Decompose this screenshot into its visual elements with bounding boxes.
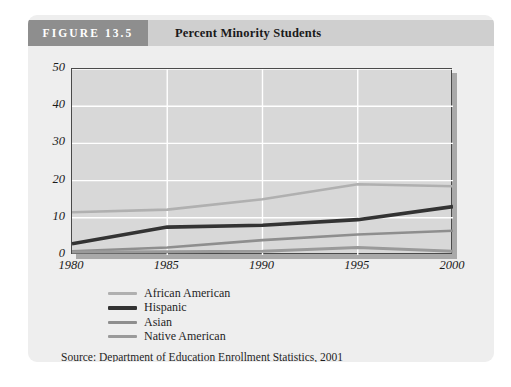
plot-shell [71, 68, 452, 254]
figure-card: FIGURE 13.5 Percent Minority Students 01… [28, 15, 494, 362]
x-tick-label: 1985 [136, 258, 196, 273]
source-note: Source: Department of Education Enrollme… [61, 351, 343, 362]
legend-label: African American [144, 286, 230, 301]
figure-title: Percent Minority Students [175, 26, 321, 41]
y-tick-label: 40 [31, 97, 65, 112]
legend-item: Native American [108, 330, 368, 345]
legend-item: Asian [108, 315, 368, 330]
figure-number-band: FIGURE 13.5 [28, 20, 148, 46]
figure-number-label: FIGURE 13.5 [43, 27, 134, 39]
figure-header: FIGURE 13.5 Percent Minority Students [28, 20, 494, 46]
plot-area [71, 68, 452, 254]
x-tick-label: 1980 [41, 258, 101, 273]
chart-legend: African AmericanHispanicAsianNative Amer… [108, 286, 368, 344]
x-tick-label: 1995 [327, 258, 387, 273]
legend-line-icon [108, 321, 137, 324]
y-tick-label: 30 [31, 134, 65, 149]
figure-title-band: Percent Minority Students [148, 20, 494, 46]
legend-line-icon [108, 335, 137, 338]
series-lines [72, 69, 453, 255]
y-tick-label: 50 [31, 60, 65, 75]
y-tick-label: 20 [31, 172, 65, 187]
legend-item: Hispanic [108, 301, 368, 316]
legend-line-icon [108, 306, 137, 310]
series-line [72, 207, 453, 244]
y-tick-label: 10 [31, 209, 65, 224]
legend-label: Hispanic [144, 300, 187, 315]
series-line [72, 184, 453, 212]
x-tick-label: 1990 [232, 258, 292, 273]
legend-item: African American [108, 286, 368, 301]
x-tick-label: 2000 [422, 258, 482, 273]
legend-label: Asian [144, 315, 172, 330]
chart-region: 01020304050 19801985199019952000 African… [28, 46, 494, 362]
legend-label: Native American [144, 329, 226, 344]
legend-line-icon [108, 292, 137, 295]
